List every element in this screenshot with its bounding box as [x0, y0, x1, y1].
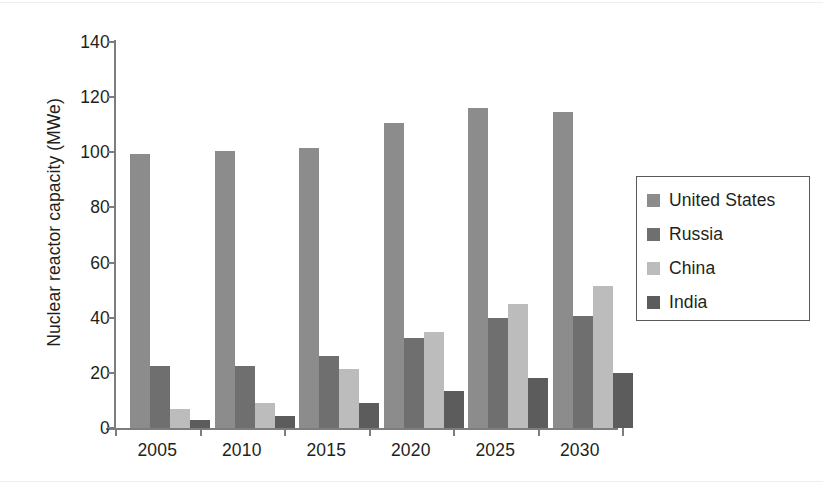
scan-artifact-top	[0, 2, 823, 3]
x-axis-tick-label: 2030	[535, 440, 625, 461]
bar	[215, 151, 235, 428]
legend-item-label: India	[669, 292, 707, 313]
bar-group	[130, 42, 210, 428]
bar	[488, 318, 508, 428]
bar	[444, 391, 464, 428]
bar	[573, 316, 593, 428]
bar	[528, 378, 548, 428]
bar	[319, 356, 339, 428]
bar-group	[384, 42, 464, 428]
bar	[359, 403, 379, 428]
y-axis-tick-label: 40	[0, 307, 110, 328]
legend-item-label: United States	[669, 190, 775, 211]
bar	[553, 112, 573, 428]
bar	[255, 403, 275, 428]
legend: United StatesRussiaChinaIndia	[636, 176, 810, 321]
x-axis-tick-mark	[369, 428, 371, 436]
bar	[275, 416, 295, 428]
y-axis-tick-mark	[108, 41, 116, 43]
legend-swatch-icon	[647, 228, 660, 241]
x-axis-tick-mark	[200, 428, 202, 436]
bar	[235, 366, 255, 428]
x-axis-tick-label: 2015	[281, 440, 371, 461]
x-axis-tick-mark	[622, 428, 624, 436]
bar	[150, 366, 170, 428]
x-axis-tick-mark	[538, 428, 540, 436]
y-axis-tick-mark	[108, 262, 116, 264]
legend-swatch-icon	[647, 296, 660, 309]
x-axis-tick-label: 2005	[112, 440, 202, 461]
bar	[339, 369, 359, 428]
bar	[593, 286, 613, 428]
bar	[508, 304, 528, 428]
bar-group	[468, 42, 548, 428]
scan-artifact-bottom	[0, 481, 823, 482]
y-axis-tick-mark	[108, 96, 116, 98]
bar-group	[553, 42, 633, 428]
x-axis-tick-label: 2020	[366, 440, 456, 461]
x-axis-tick-mark	[284, 428, 286, 436]
bar	[170, 409, 190, 428]
x-axis-line	[106, 428, 618, 430]
y-axis-tick-label: 140	[0, 32, 110, 53]
legend-swatch-icon	[647, 194, 660, 207]
legend-item: India	[647, 291, 707, 313]
legend-item: Russia	[647, 223, 723, 245]
bar	[190, 420, 210, 428]
y-axis-tick-label: 20	[0, 362, 110, 383]
bar	[299, 148, 319, 428]
legend-item: China	[647, 257, 715, 279]
x-axis-tick-mark	[115, 428, 117, 436]
legend-item: United States	[647, 189, 775, 211]
y-axis-tick-label: 60	[0, 252, 110, 273]
bar	[384, 123, 404, 428]
x-axis-tick-mark	[453, 428, 455, 436]
bar-group	[299, 42, 379, 428]
bar	[130, 154, 150, 428]
legend-item-label: China	[669, 258, 715, 279]
legend-item-label: Russia	[669, 224, 723, 245]
y-axis-tick-label: 80	[0, 197, 110, 218]
y-axis-tick-mark	[108, 317, 116, 319]
bar	[468, 108, 488, 428]
y-axis-tick-mark	[108, 151, 116, 153]
y-axis-tick-label: 0	[0, 418, 110, 439]
chart-screenshot: Nuclear reactor capacity (MWe) 020406080…	[0, 0, 823, 485]
legend-swatch-icon	[647, 262, 660, 275]
bar	[613, 373, 633, 428]
x-axis-tick-label: 2010	[197, 440, 287, 461]
y-axis-tick-mark	[108, 206, 116, 208]
y-axis-tick-mark	[108, 372, 116, 374]
y-axis-tick-label: 100	[0, 142, 110, 163]
y-axis-tick-label: 120	[0, 87, 110, 108]
x-axis-tick-label: 2025	[450, 440, 540, 461]
bar	[424, 332, 444, 429]
bar-group	[215, 42, 295, 428]
bar	[404, 338, 424, 428]
